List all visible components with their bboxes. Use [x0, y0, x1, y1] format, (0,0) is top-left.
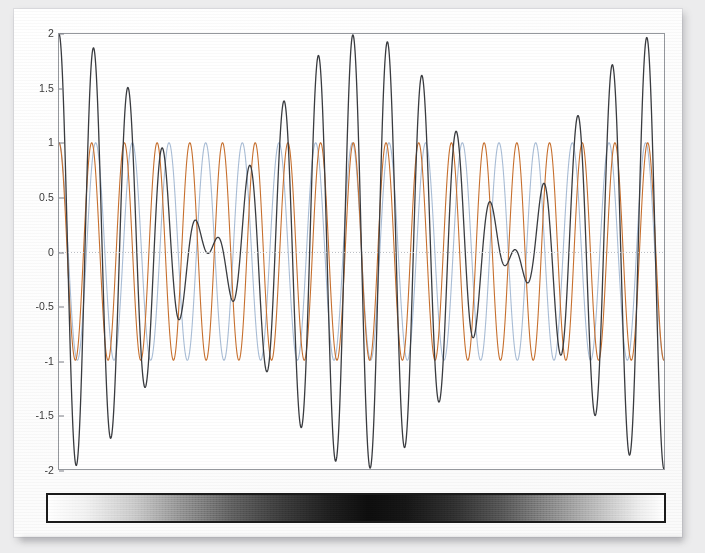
beat-envelope-colorbar — [46, 493, 666, 523]
y-axis-tick-mark — [59, 307, 64, 308]
y-axis-tick-mark — [59, 143, 64, 144]
y-axis-tick-label: -2 — [20, 465, 54, 476]
y-axis-tick-mark — [59, 361, 64, 362]
y-axis-tick-mark — [59, 34, 64, 35]
y-axis-tick-label: -1 — [20, 356, 54, 367]
y-axis-tick-label: 0.5 — [20, 192, 54, 203]
y-axis-tick-label: 1 — [20, 137, 54, 148]
figure: 21.510.50-0.5-1-1.5-2 — [14, 9, 682, 537]
plot-frame — [58, 33, 665, 470]
y-axis-tick-label: 0 — [20, 246, 54, 257]
y-axis-tick-mark — [59, 197, 64, 198]
plot-area — [59, 34, 664, 469]
card-drop-shadow — [22, 537, 682, 545]
y-axis-tick-mark — [59, 88, 64, 89]
y-axis-tick-mark — [59, 471, 64, 472]
y-axis-tick-labels: 21.510.50-0.5-1-1.5-2 — [14, 33, 54, 470]
y-axis-tick-label: 1.5 — [20, 82, 54, 93]
zero-reference-line — [59, 252, 664, 253]
y-axis-tick-mark — [59, 416, 64, 417]
y-axis-tick-label: 2 — [20, 28, 54, 39]
y-axis-tick-mark — [59, 252, 64, 253]
colorbar-gradient — [48, 495, 664, 521]
screenshot-root: 21.510.50-0.5-1-1.5-2 — [0, 0, 705, 553]
y-axis-tick-label: -1.5 — [20, 410, 54, 421]
y-axis-tick-label: -0.5 — [20, 301, 54, 312]
